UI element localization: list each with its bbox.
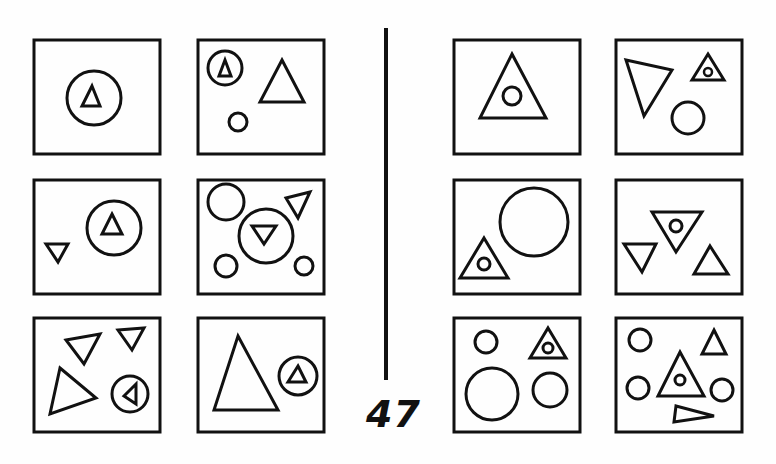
left-panel-6 [196,316,326,434]
panel-figure [196,316,326,434]
panel-figure [32,38,162,156]
panel-figure [196,178,326,296]
panel-figure [32,316,162,434]
panel-figure [452,178,582,296]
panel-figure [614,38,744,156]
circle-icon [67,71,121,125]
left-panel-2 [196,38,326,156]
right-panel-6 [614,316,744,434]
panel-figure [614,178,744,296]
panel-figure [196,38,326,156]
panel-figure [614,316,744,434]
vertical-divider [384,28,388,380]
right-panel-4 [614,178,744,296]
left-panel-3 [32,178,162,296]
figure-number: 47 [366,392,421,436]
left-panel-1 [32,38,162,156]
left-panel-5 [32,316,162,434]
right-panel-3 [452,178,582,296]
right-panel-2 [614,38,744,156]
triangle-icon [82,86,100,106]
panel-figure [452,38,582,156]
panel-figure [32,178,162,296]
right-panel-5 [452,316,582,434]
panel-figure [452,316,582,434]
left-panel-4 [196,178,326,296]
right-panel-1 [452,38,582,156]
